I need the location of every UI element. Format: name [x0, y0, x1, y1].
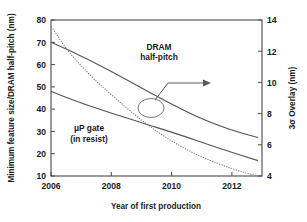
left-tick-30: 30 — [36, 127, 46, 137]
right-tick-6: 6 — [267, 140, 272, 150]
left-tick-80: 80 — [36, 15, 46, 25]
left-tick-60: 60 — [36, 60, 46, 70]
arrow-right-icon — [203, 79, 211, 86]
bottom-tick-2010: 2010 — [162, 181, 181, 191]
right-axis-title: 3σ Overlay (nm) — [288, 66, 297, 129]
left-tick-10: 10 — [36, 171, 46, 181]
dram-label-line1: DRAM — [146, 42, 171, 52]
bottom-axis-ticks — [51, 172, 232, 176]
right-tick-8: 8 — [267, 109, 272, 119]
dram-label-line2: half-pitch — [140, 52, 178, 62]
overlay-callout — [138, 79, 211, 117]
left-tick-70: 70 — [36, 38, 46, 48]
bottom-tick-2008: 2008 — [102, 181, 121, 191]
up-gate-label-line1: μP gate — [74, 123, 104, 133]
chart-figure: 80 70 60 50 40 30 20 10 14 12 10 8 6 4 2… — [0, 0, 307, 222]
up-gate-label-line2: (in resist) — [70, 134, 108, 144]
right-tick-10: 10 — [267, 78, 277, 88]
overlay-callout-leader — [155, 83, 204, 100]
bottom-axis-title: Year of first production — [111, 202, 201, 211]
left-axis-title: Minimum feature size/DRAM half-pitch (nm… — [7, 13, 16, 182]
overlay-callout-ellipse — [138, 99, 164, 118]
right-tick-4: 4 — [267, 171, 272, 181]
right-axis-ticks — [258, 20, 262, 176]
bottom-tick-2006: 2006 — [41, 181, 60, 191]
left-tick-50: 50 — [36, 82, 46, 92]
left-tick-40: 40 — [36, 104, 46, 114]
left-tick-20: 20 — [36, 149, 46, 159]
right-tick-14: 14 — [267, 15, 277, 25]
right-tick-12: 12 — [267, 47, 277, 57]
bottom-tick-2012: 2012 — [222, 181, 241, 191]
chart-canvas: 80 70 60 50 40 30 20 10 14 12 10 8 6 4 2… — [0, 0, 307, 222]
